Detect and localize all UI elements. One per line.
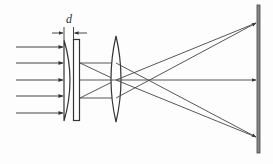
gap-label: d bbox=[66, 13, 72, 25]
optics-diagram: d bbox=[0, 0, 273, 164]
focused-rays bbox=[80, 23, 256, 137]
plano-convex-element bbox=[64, 40, 70, 121]
incident-rays bbox=[16, 47, 63, 113]
screen bbox=[257, 5, 260, 153]
glass-plate bbox=[74, 40, 80, 121]
diagram-svg bbox=[0, 0, 273, 164]
gap-dimension bbox=[52, 27, 87, 40]
